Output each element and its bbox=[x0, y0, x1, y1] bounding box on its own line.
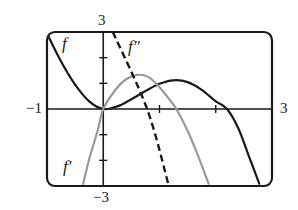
y-min-label: −3 bbox=[93, 190, 109, 205]
function-graph bbox=[0, 0, 298, 210]
label-f-prime: f′ bbox=[63, 158, 71, 175]
y-max-label: 3 bbox=[98, 13, 106, 28]
x-max-label: 3 bbox=[280, 101, 288, 116]
label-f-double-prime: f″ bbox=[128, 38, 140, 55]
label-f: f bbox=[62, 35, 67, 52]
x-min-label: −1 bbox=[26, 101, 42, 116]
